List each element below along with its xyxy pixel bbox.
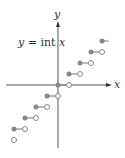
closed-dot bbox=[45, 94, 50, 99]
closed-dot bbox=[100, 39, 105, 44]
closed-dot bbox=[89, 50, 94, 55]
x-axis-label: x bbox=[114, 78, 120, 91]
open-dot bbox=[23, 127, 28, 132]
closed-dot bbox=[78, 61, 83, 66]
y-axis-label: y bbox=[54, 8, 60, 21]
y-axis-arrow-icon bbox=[56, 21, 60, 27]
open-dot bbox=[100, 50, 105, 55]
closed-dot bbox=[67, 72, 72, 77]
x-axis-arrow-icon bbox=[106, 83, 112, 87]
closed-dot bbox=[12, 127, 17, 132]
closed-dot bbox=[34, 105, 39, 110]
step-segments bbox=[12, 39, 109, 143]
open-dot bbox=[45, 105, 50, 110]
open-dot bbox=[78, 72, 83, 77]
closed-dot bbox=[56, 83, 61, 88]
step-function-graph: y x y = int x bbox=[0, 0, 125, 158]
graph-canvas bbox=[0, 0, 125, 158]
open-dot bbox=[89, 61, 94, 66]
open-dot bbox=[12, 138, 17, 143]
function-title: y = int x bbox=[18, 36, 65, 49]
open-dot bbox=[34, 116, 39, 121]
open-dot bbox=[56, 94, 61, 99]
open-dot bbox=[67, 83, 72, 88]
closed-dot bbox=[23, 116, 28, 121]
